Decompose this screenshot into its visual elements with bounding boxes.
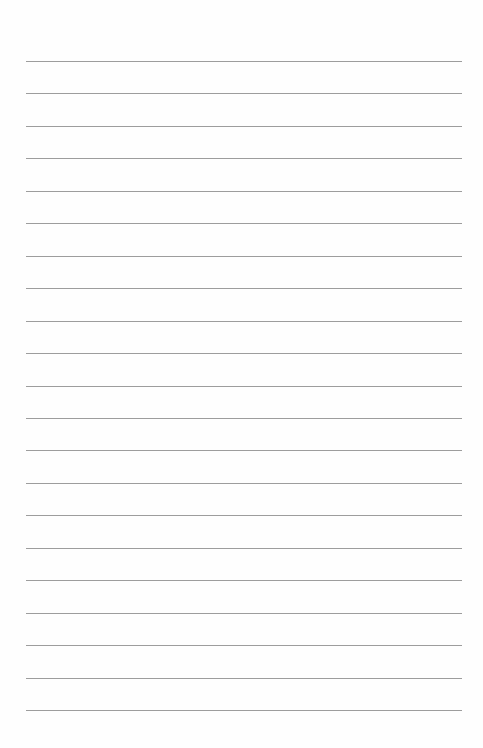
ruled-line [26,483,462,484]
ruled-line [26,93,462,94]
ruled-line [26,191,462,192]
ruled-line [26,321,462,322]
ruled-line [26,158,462,159]
ruled-line [26,678,462,679]
ruled-line [26,450,462,451]
ruled-line [26,386,462,387]
ruled-line [26,645,462,646]
ruled-line [26,580,462,581]
lined-paper-page [0,0,483,748]
ruled-line [26,515,462,516]
ruled-line [26,418,462,419]
ruled-line [26,256,462,257]
ruled-line [26,61,462,62]
ruled-line [26,548,462,549]
ruled-line [26,353,462,354]
ruled-line [26,288,462,289]
ruled-line [26,710,462,711]
ruled-line [26,126,462,127]
ruled-line [26,223,462,224]
ruled-line [26,613,462,614]
